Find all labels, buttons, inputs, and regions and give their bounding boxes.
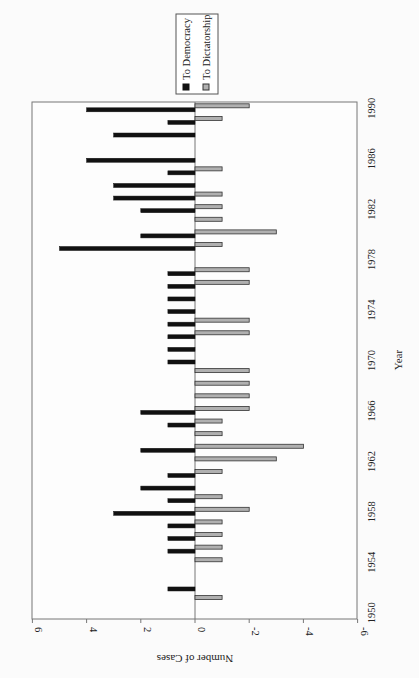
bar-to-democracy: [168, 473, 195, 477]
bar-to-democracy: [168, 297, 195, 301]
bar-to-dictatorship: [195, 457, 276, 461]
bar-to-democracy: [114, 196, 195, 200]
value-tick-label: 0: [196, 627, 207, 632]
year-tick-label: 1954: [366, 551, 377, 573]
value-tick-label: -4: [304, 627, 315, 636]
bar-to-democracy: [168, 524, 195, 528]
bar-to-democracy: [141, 448, 195, 452]
year-tick-label: 1982: [366, 199, 377, 220]
bar-to-dictatorship: [195, 406, 249, 410]
bar-to-democracy: [168, 322, 195, 326]
year-tick-label: 1970: [366, 350, 377, 371]
bar-to-democracy: [168, 423, 195, 427]
bar-to-dictatorship: [195, 243, 222, 247]
bar-to-dictatorship: [195, 558, 222, 562]
bar-to-dictatorship: [195, 167, 222, 171]
value-tick-label: 6: [33, 627, 44, 632]
bar-to-dictatorship: [195, 545, 222, 549]
value-tick-label: 2: [142, 627, 153, 632]
bar-to-democracy: [168, 272, 195, 276]
bar-to-dictatorship: [195, 596, 222, 600]
bar-to-democracy: [168, 310, 195, 314]
legend-label-democracy: To Democracy: [181, 17, 192, 80]
year-tick-label: 1990: [366, 98, 377, 119]
year-tick-label: 1974: [366, 299, 377, 321]
bar-to-dictatorship: [195, 280, 249, 284]
bar-to-democracy: [168, 549, 195, 553]
bar-to-dictatorship: [195, 217, 222, 221]
bar-to-dictatorship: [195, 205, 222, 209]
bar-to-dictatorship: [195, 318, 249, 322]
legend-swatch-dictatorship: [203, 84, 209, 90]
bar-to-dictatorship: [195, 394, 249, 398]
value-axis: 6420-2-4-6: [32, 619, 369, 636]
bar-to-dictatorship: [195, 507, 249, 511]
bar-to-dictatorship: [195, 104, 249, 108]
year-axis-title: Year: [392, 350, 404, 371]
bar-chart: To Democracy To Dictatorship 6420-2-4-6 …: [0, 0, 419, 678]
bar-to-democracy: [168, 120, 195, 124]
bar-to-dictatorship: [195, 192, 222, 196]
bar-to-dictatorship: [195, 116, 222, 120]
bar-to-democracy: [168, 284, 195, 288]
bar-to-democracy: [168, 537, 195, 541]
year-tick-label: 1966: [366, 400, 377, 421]
bar-to-dictatorship: [195, 520, 222, 524]
bar-to-dictatorship: [195, 533, 222, 537]
bar-to-democracy: [114, 133, 195, 137]
legend-swatch-democracy: [183, 84, 189, 90]
bar-to-dictatorship: [195, 381, 249, 385]
year-axis: 1950195419581962196619701974197819821986…: [366, 98, 377, 623]
bar-to-democracy: [168, 171, 195, 175]
year-tick-label: 1978: [366, 249, 377, 270]
bar-to-dictatorship: [195, 331, 249, 335]
value-tick-label: -2: [250, 627, 261, 636]
legend-label-dictatorship: To Dictatorship: [201, 15, 212, 80]
bar-to-dictatorship: [195, 495, 222, 499]
value-tick-label: 4: [88, 627, 99, 633]
year-tick-label: 1958: [366, 501, 377, 522]
bar-to-democracy: [114, 183, 195, 187]
bar-to-democracy: [141, 234, 195, 238]
bar-to-democracy: [168, 499, 195, 503]
bar-to-democracy: [114, 511, 195, 515]
bar-to-dictatorship: [195, 268, 249, 272]
year-tick-label: 1950: [366, 602, 377, 623]
bar-to-democracy: [87, 108, 195, 112]
bar-to-democracy: [141, 486, 195, 490]
bar-to-democracy: [168, 347, 195, 351]
bar-to-dictatorship: [195, 469, 222, 473]
value-tick-label: -6: [359, 627, 370, 636]
value-axis-title: Number of Cases: [157, 653, 233, 665]
bar-to-dictatorship: [195, 369, 249, 373]
bar-to-democracy: [87, 158, 195, 162]
year-tick-label: 1962: [366, 451, 377, 472]
bar-to-dictatorship: [195, 444, 303, 448]
bar-to-dictatorship: [195, 230, 276, 234]
bar-to-democracy: [60, 247, 196, 251]
legend: To Democracy To Dictatorship: [176, 14, 218, 94]
bar-to-democracy: [168, 335, 195, 339]
bar-to-dictatorship: [195, 432, 222, 436]
bar-to-dictatorship: [195, 419, 222, 423]
year-tick-label: 1986: [366, 148, 377, 169]
bar-to-democracy: [168, 360, 195, 364]
bar-to-democracy: [141, 410, 195, 414]
bar-to-democracy: [168, 587, 195, 591]
bar-to-democracy: [141, 209, 195, 213]
